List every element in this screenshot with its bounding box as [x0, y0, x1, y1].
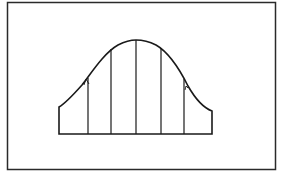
divider-lines [88, 40, 184, 134]
outer-border [8, 3, 276, 170]
bell-curve-diagram [0, 0, 281, 172]
diagram-frame [0, 0, 281, 172]
